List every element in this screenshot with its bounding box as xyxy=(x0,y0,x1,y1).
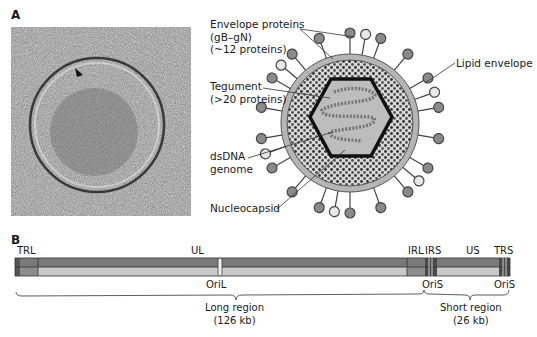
segment-ul: UL xyxy=(191,245,204,258)
short-region-label: Short region (26 kb) xyxy=(440,302,502,327)
segment-us: US xyxy=(466,245,480,258)
origin-oris-1: OriS xyxy=(422,279,443,292)
segment-irl: IRL xyxy=(408,245,423,258)
label-dsdna-genome: dsDNA genome xyxy=(210,150,253,175)
region-braces xyxy=(16,290,509,300)
virion-diagram xyxy=(256,28,445,218)
segment-trs: TRS xyxy=(494,245,513,258)
segment-trl: TRL xyxy=(17,245,36,258)
label-nucleocapsid: Nucleocapsid xyxy=(210,202,280,215)
segment-irs: IRS xyxy=(425,245,441,258)
genome-map xyxy=(15,258,510,276)
long-region-label: Long region (126 kb) xyxy=(205,302,264,327)
label-tegument: Tegument (>20 proteins) xyxy=(210,80,286,105)
origin-oril: OriL xyxy=(206,279,226,292)
label-envelope-proteins: Envelope proteins (gB–gN) (~12 proteins) xyxy=(210,18,305,56)
origin-oris-2: OriS xyxy=(494,279,515,292)
label-lipid-envelope: Lipid envelope xyxy=(456,57,533,70)
